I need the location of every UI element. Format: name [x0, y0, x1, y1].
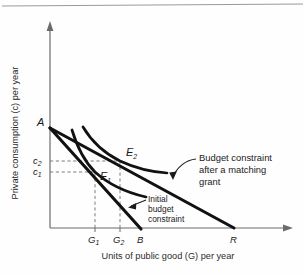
- leader-arrowhead-initial-constraint: [128, 203, 136, 209]
- annotation-initial-constraint-line-1: Initial: [148, 194, 168, 204]
- annotation-matching-grant-line-2: after a matching: [199, 164, 266, 175]
- leader-matching-grant: [173, 159, 196, 177]
- y-tick-label-c1: c1: [33, 166, 42, 178]
- indifference-curve-u2: [83, 127, 167, 173]
- x-axis-title: Units of public good (G) per year: [102, 251, 235, 261]
- x-tick-label-r: R: [230, 234, 237, 245]
- indifference-curve-diagram: A E1 E2 c2 c1 G1 G2 B: [0, 0, 305, 275]
- x-axis-arrowhead: [283, 225, 293, 232]
- point-label-e1: E1: [100, 170, 111, 184]
- annotation-initial-constraint-line-2: budget: [148, 204, 174, 214]
- annotation-initial-constraint-line-3: constraint: [148, 214, 185, 224]
- top-divider-rule: [2, 4, 303, 6]
- y-tick-labels-group: c2 c1: [33, 155, 42, 178]
- point-labels-group: A E1 E2: [36, 116, 137, 184]
- annotation-matching-grant: Budget constraint after a matching grant: [199, 152, 272, 187]
- annotation-matching-grant-line-1: Budget constraint: [199, 152, 272, 163]
- annotation-matching-grant-line-3: grant: [199, 176, 221, 187]
- y-axis-title: Private consumption (c) per year: [10, 67, 20, 200]
- leader-arrowhead-matching-grant: [169, 172, 177, 180]
- x-tick-label-g2: G2: [113, 234, 124, 246]
- x-tick-labels-group: G1 G2 B R: [88, 234, 237, 246]
- x-tick-marks: [95, 228, 120, 232]
- point-label-e2: E2: [126, 146, 137, 160]
- x-tick-label-g1: G1: [88, 234, 99, 246]
- point-label-a: A: [36, 116, 44, 128]
- y-axis-arrowhead: [47, 21, 54, 31]
- figure-container: A E1 E2 c2 c1 G1 G2 B: [0, 0, 305, 275]
- x-tick-label-b: B: [137, 234, 144, 245]
